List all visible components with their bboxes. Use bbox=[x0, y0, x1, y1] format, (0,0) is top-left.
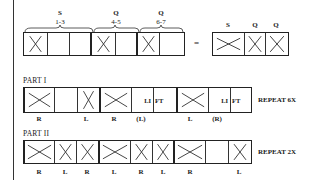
part1-foot-5: L bbox=[184, 116, 196, 123]
tall-x-icon bbox=[77, 141, 98, 163]
part1-cell-8: LI bbox=[209, 88, 231, 112]
part1-cell-6: FT bbox=[154, 88, 178, 112]
part2-cell-4 bbox=[100, 141, 131, 163]
part2-cell-8 bbox=[206, 141, 229, 163]
lift-text-a: LI bbox=[144, 97, 151, 104]
part1-foot-3: R bbox=[108, 116, 120, 123]
part2-cell-3 bbox=[77, 141, 100, 163]
part-2-box bbox=[23, 140, 252, 164]
part-1-box: LI FT LI FT bbox=[23, 87, 252, 113]
part2-foot-3: R bbox=[81, 169, 93, 176]
summary-quick-cell-1 bbox=[245, 33, 266, 55]
group-3-type: Q bbox=[151, 10, 171, 17]
tall-x-icon bbox=[153, 141, 173, 163]
summary-slow-cell bbox=[213, 33, 245, 55]
count-cell-4 bbox=[92, 33, 116, 55]
wide-x-icon bbox=[175, 141, 205, 163]
wide-x-icon bbox=[25, 141, 54, 163]
part1-foot-4: (L) bbox=[133, 116, 149, 123]
summary-label-s: S bbox=[222, 22, 234, 29]
part2-cell-1 bbox=[25, 141, 55, 163]
tall-x-icon bbox=[131, 141, 152, 163]
lift-text-b: FT bbox=[155, 97, 163, 104]
group-2-type: Q bbox=[106, 10, 126, 17]
part1-foot-2: L bbox=[80, 116, 92, 123]
part2-foot-1: R bbox=[33, 169, 45, 176]
tall-x-icon bbox=[55, 141, 76, 163]
part2-cell-9 bbox=[229, 141, 251, 163]
tall-x-icon bbox=[138, 33, 159, 55]
tall-x-icon bbox=[92, 33, 115, 55]
count-cell-6 bbox=[138, 33, 160, 55]
summary-label-q2: Q bbox=[270, 22, 282, 29]
wide-x-icon bbox=[100, 141, 130, 163]
part2-foot-7: R bbox=[184, 169, 196, 176]
tall-x-icon bbox=[24, 33, 47, 55]
part2-cell-7 bbox=[175, 141, 206, 163]
count-cell-3 bbox=[70, 33, 92, 55]
part1-cell-9: FT bbox=[231, 88, 251, 112]
part-2-title: PART II bbox=[23, 130, 49, 138]
wide-x-icon bbox=[25, 88, 54, 112]
part1-cell-1 bbox=[25, 88, 55, 112]
part1-cell-4 bbox=[101, 88, 132, 112]
tall-x-icon bbox=[245, 33, 265, 55]
part-1-title: PART I bbox=[23, 77, 46, 85]
lift-text-c: LI bbox=[221, 97, 228, 104]
count-cell-2 bbox=[48, 33, 70, 55]
part2-cell-5 bbox=[131, 141, 153, 163]
part2-cell-6 bbox=[153, 141, 175, 163]
wide-x-icon bbox=[178, 88, 208, 112]
count-cell-5 bbox=[116, 33, 138, 55]
part1-cell-7 bbox=[178, 88, 209, 112]
part1-foot-6: (R) bbox=[209, 116, 225, 123]
part2-foot-4: L bbox=[108, 169, 120, 176]
count-cell-1 bbox=[24, 33, 48, 55]
part1-cell-3 bbox=[78, 88, 101, 112]
wide-x-icon bbox=[213, 33, 244, 55]
part2-foot-2: L bbox=[59, 169, 71, 176]
summary-quick-cell-2 bbox=[266, 33, 288, 55]
equals-sign: = bbox=[194, 38, 199, 48]
tall-x-icon bbox=[78, 88, 99, 112]
margin-rule bbox=[13, 0, 14, 180]
summary-label-q1: Q bbox=[249, 22, 261, 29]
part2-cell-2 bbox=[55, 141, 77, 163]
part1-cell-2 bbox=[55, 88, 78, 112]
part2-foot-6: L bbox=[157, 169, 169, 176]
lift-text-d: FT bbox=[232, 97, 240, 104]
seven-count-box bbox=[23, 32, 185, 56]
part-2-repeat: REPEAT 2X bbox=[258, 149, 296, 156]
summary-box bbox=[212, 32, 289, 56]
wide-x-icon bbox=[101, 88, 131, 112]
tall-x-icon bbox=[266, 33, 288, 55]
part1-foot-1: R bbox=[33, 116, 45, 123]
tall-x-icon bbox=[229, 141, 251, 163]
group-1-type: S bbox=[50, 10, 70, 17]
part2-foot-5: R bbox=[135, 169, 147, 176]
part1-cell-5: LI bbox=[132, 88, 154, 112]
part2-foot-8: L bbox=[233, 169, 245, 176]
count-cell-7 bbox=[160, 33, 184, 55]
part-1-repeat: REPEAT 6X bbox=[258, 97, 296, 104]
